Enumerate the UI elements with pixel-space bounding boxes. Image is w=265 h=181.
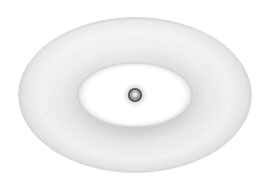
torus-illustration [0, 0, 265, 181]
orbital-diagram [0, 0, 265, 181]
nucleus-icon [121, 81, 149, 109]
